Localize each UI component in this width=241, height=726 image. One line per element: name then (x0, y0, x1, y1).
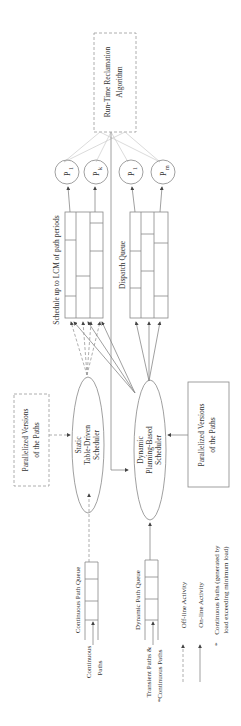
svg-text:Transient Paths &: Transient Paths & (145, 646, 153, 697)
svg-text:P: P (127, 171, 136, 176)
static-schedule-label: Schedule up to LCM of path periods (52, 215, 61, 325)
continuous-path-queue: Continuous Path Queue Continuous Paths (74, 494, 104, 678)
scheduling-architecture-diagram: Run-Time Reclamation Algorithm P 1 P k P… (0, 0, 241, 726)
rtra-label-1: Run-Time Reclamation (103, 47, 112, 118)
svg-text:Paths: Paths (96, 660, 104, 675)
dispatch-queue-label: Dispatch Queue (118, 240, 127, 289)
run-time-reclamation-box: Run-Time Reclamation Algorithm (94, 33, 136, 132)
processor-pm-dynamic: P m (151, 160, 175, 184)
svg-text:P: P (159, 171, 168, 176)
svg-text:P: P (92, 171, 101, 176)
continuous-queue-label: Continuous Path Queue (74, 567, 82, 634)
svg-text:k: k (97, 167, 103, 170)
legend: Off-line Activity On-line Activity * Con… (180, 545, 230, 682)
svg-text:Parallelized Versions: Parallelized Versions (21, 408, 30, 471)
parallelized-versions-online: Parallelized Versions of the Paths (188, 382, 229, 487)
svg-text:m: m (164, 165, 170, 170)
svg-text:of the Paths: of the Paths (32, 422, 41, 457)
svg-text:Dynamic: Dynamic (136, 436, 145, 464)
svg-text:*Continuous Paths: *Continuous Paths (156, 649, 164, 702)
svg-text:P: P (63, 171, 72, 176)
svg-text:Scheduler: Scheduler (92, 430, 101, 460)
svg-text:load exceeding minimum load): load exceeding minimum load) (222, 546, 230, 634)
svg-text:Table-Driven: Table-Driven (83, 425, 92, 465)
svg-text:Continuous Paths (generated by: Continuous Paths (generated by (213, 545, 221, 635)
static-scheduler-node: Static Table-Driven Scheduler (72, 377, 104, 513)
svg-text:Continuous: Continuous (85, 646, 93, 679)
dynamic-queue-label: Dynamic Path Queue (134, 570, 142, 630)
svg-text:Static: Static (74, 436, 83, 454)
dispatch-queue-table: Dispatch Queue (118, 212, 168, 318)
processor-p1-dynamic: P 1 (119, 160, 143, 184)
svg-text:Planning-Based: Planning-Based (145, 426, 154, 474)
legend-star: * (213, 642, 221, 646)
dynamic-scheduler-node: Dynamic Planning-Based Scheduler (134, 380, 166, 520)
processor-pk-static: P k (84, 160, 108, 184)
svg-text:1: 1 (68, 167, 74, 170)
svg-text:of the Paths: of the Paths (208, 417, 217, 452)
svg-text:1: 1 (132, 167, 138, 170)
legend-offline: Off-line Activity (180, 581, 188, 628)
svg-text:Parallelized Versions: Parallelized Versions (197, 403, 206, 466)
parallelized-versions-offline: Parallelized Versions of the Paths (14, 394, 49, 486)
dynamic-path-queue: Dynamic Path Queue Transient Paths & *Co… (134, 523, 164, 702)
rtra-label-2: Algorithm (115, 66, 124, 97)
legend-online: On-line Activity (197, 582, 205, 628)
static-schedule-table: Schedule up to LCM of path periods (52, 212, 103, 325)
processor-p1-static: P 1 (55, 160, 79, 184)
svg-text:Scheduler: Scheduler (154, 435, 163, 465)
